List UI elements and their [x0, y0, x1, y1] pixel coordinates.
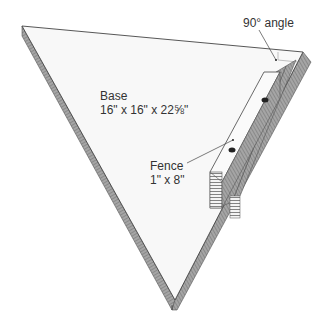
base-label-name: Base — [100, 89, 188, 103]
base-label: Base 16" x 16" x 22⅝" — [100, 89, 188, 117]
screw-hole-top — [262, 98, 269, 103]
fence-label-dims: 1" x 8" — [150, 173, 185, 187]
fence-label: Fence 1" x 8" — [150, 159, 185, 187]
angle-label: 90° angle — [243, 16, 294, 30]
fence-lower-end — [230, 196, 240, 218]
jig-diagram: Base 16" x 16" x 22⅝" 90° angle Fence 1"… — [0, 0, 324, 321]
base-label-dims: 16" x 16" x 22⅝" — [100, 103, 188, 117]
screw-hole-bottom — [229, 148, 236, 153]
fence-label-name: Fence — [150, 159, 185, 173]
